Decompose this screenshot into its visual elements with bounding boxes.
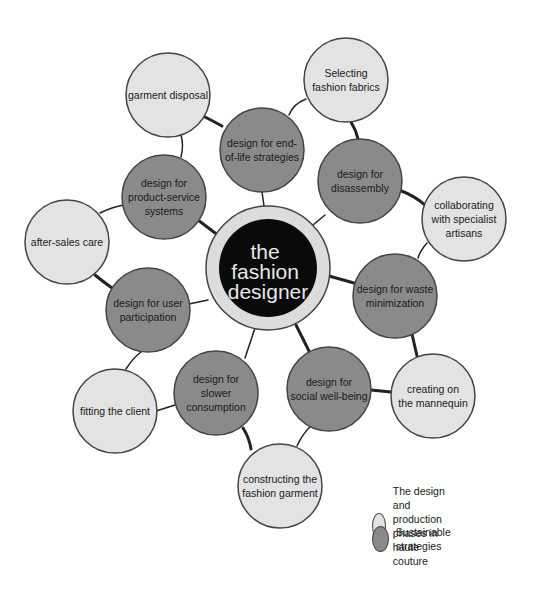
center-node: the fashion designer — [206, 206, 330, 330]
legend-swatch-strategy — [372, 526, 389, 552]
node-circle-strategy — [318, 139, 402, 223]
connector-fitting-userparticipation — [126, 352, 141, 369]
connector-mannequin-social — [371, 390, 391, 392]
node-collaborating: collaboratingwith specialistartisans — [422, 177, 506, 261]
connector-fabrics-disassembly — [351, 122, 358, 139]
connector-slower-constructing — [243, 428, 251, 449]
node-label: fitting the client — [80, 405, 150, 417]
node-after-sales: after-sales care — [25, 200, 109, 284]
connector-collaborating-waste — [418, 243, 427, 258]
spoke-disassembly — [313, 215, 325, 225]
node-circle-strategy — [353, 254, 437, 338]
fashion-designer-diagram: the fashion designer garment disposalSel… — [0, 0, 539, 589]
legend-item-strategy: Sustainable strategies — [372, 525, 460, 553]
spoke-userparticipation — [189, 300, 208, 304]
node-circle-strategy — [106, 268, 190, 352]
node-disassembly: design fordisassembly — [318, 139, 402, 223]
spoke-social — [296, 325, 309, 351]
node-selecting-fabrics: Selectingfashion fabrics — [304, 38, 388, 122]
node-circle-phase — [391, 354, 475, 438]
connector-waste-mannequin — [412, 334, 417, 356]
connector-aftersales-productservice — [100, 205, 124, 213]
node-slower-consumption: design forslowerconsumption — [174, 351, 258, 435]
connector-disposal-endoflife — [205, 117, 222, 126]
connector-slower-fitting — [156, 405, 175, 411]
connector-disassembly-collaborating — [399, 190, 425, 205]
node-label: after-sales care — [31, 236, 104, 248]
node-end-of-life: design for end-of-life strategies — [220, 108, 304, 192]
node-waste-minimization: design for wasteminimization — [353, 254, 437, 338]
node-circle-strategy — [287, 347, 371, 431]
node-circle-strategy — [220, 108, 304, 192]
spoke-slower — [245, 328, 255, 358]
node-constructing-garment: constructing thefashion garment — [238, 444, 322, 528]
node-user-participation: design for userparticipation — [106, 268, 190, 352]
node-label: garment disposal — [128, 89, 208, 101]
node-social-well-being: design forsocial well-being — [287, 347, 371, 431]
spoke-endoflife — [262, 192, 264, 206]
connector-disposal-productservice — [181, 135, 183, 157]
legend-label-strategy: Sustainable strategies — [396, 525, 460, 553]
node-circle-phase — [304, 38, 388, 122]
connector-userparticipation-aftersales — [95, 275, 112, 288]
node-circle-phase — [238, 444, 322, 528]
node-garment-disposal: garment disposal — [126, 53, 210, 137]
node-product-service: design forproduct-servicesystems — [122, 155, 206, 239]
node-fitting-client: fitting the client — [73, 369, 157, 453]
spoke-waste — [329, 276, 354, 283]
connector-fabrics-endoflife — [289, 99, 306, 115]
node-creating-mannequin: creating onthe mannequin — [391, 354, 475, 438]
connector-social-constructing — [297, 426, 311, 446]
